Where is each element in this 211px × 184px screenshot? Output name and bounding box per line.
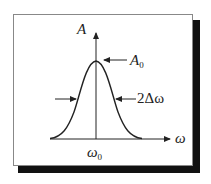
gaussian-diagram: [0, 0, 211, 184]
x-axis-label: ω: [175, 131, 186, 146]
peak-label: A0: [130, 53, 144, 70]
center-frequency-label: ω0: [87, 145, 102, 162]
width-label: 2Δω: [137, 91, 164, 106]
y-axis-label: A: [77, 22, 86, 37]
